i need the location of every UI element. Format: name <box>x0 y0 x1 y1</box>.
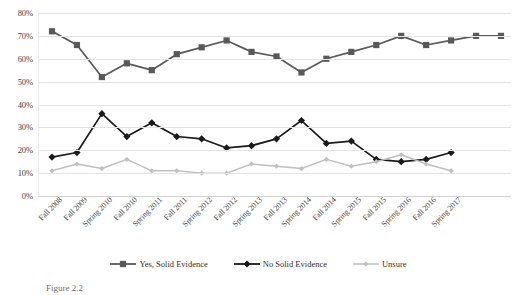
square-marker <box>224 37 230 43</box>
plot-area: 0%10%20%30%40%50%60%70%80% <box>38 13 511 196</box>
legend-label: Unsure <box>382 259 407 269</box>
y-axis-tick-label: 0% <box>22 191 33 201</box>
legend-label: No Solid Evidence <box>263 259 327 269</box>
x-axis-labels: Fall 2008Fall 2009Spring 2010Fall 2010Sp… <box>38 198 511 256</box>
square-marker <box>120 261 126 267</box>
legend-item[interactable]: Yes, Solid Evidence <box>110 259 207 269</box>
square-marker <box>199 44 205 50</box>
square-marker <box>174 51 180 57</box>
x-axis-tick-label: Fall 2008 <box>31 198 58 225</box>
series-line <box>52 114 451 162</box>
square-marker <box>99 74 105 80</box>
square-marker <box>348 49 354 55</box>
y-axis-tick-label: 40% <box>18 100 33 110</box>
small-diamond-marker <box>299 166 304 171</box>
y-axis-tick-label: 10% <box>18 168 33 178</box>
diamond-marker <box>248 142 255 149</box>
square-marker <box>149 67 155 73</box>
diamond-marker <box>173 133 180 140</box>
small-diamond-marker <box>99 166 104 171</box>
small-diamond-marker <box>399 152 404 157</box>
diamond-marker <box>243 260 250 267</box>
gridline <box>38 173 511 174</box>
gridline <box>38 105 511 106</box>
small-diamond-marker <box>349 164 354 169</box>
small-diamond-marker <box>324 157 329 162</box>
square-marker <box>448 37 454 43</box>
small-diamond-marker <box>124 157 129 162</box>
y-axis-tick-label: 30% <box>18 122 33 132</box>
y-axis-tick-label: 70% <box>18 31 33 41</box>
gridline <box>38 127 511 128</box>
gridline <box>38 13 511 14</box>
diamond-marker <box>48 154 55 161</box>
square-marker <box>423 42 429 48</box>
square-marker <box>298 69 304 75</box>
gridline <box>38 150 511 151</box>
square-marker <box>74 42 80 48</box>
figure-caption: Figure 2.2 <box>46 283 83 295</box>
square-marker <box>124 60 130 66</box>
square-marker <box>110 259 136 269</box>
gridline <box>38 82 511 83</box>
small-diamond-marker <box>249 161 254 166</box>
gridline <box>38 36 511 37</box>
square-marker <box>49 28 55 34</box>
small-diamond-marker <box>363 261 368 266</box>
small-marker <box>353 259 379 269</box>
y-axis-tick-label: 60% <box>18 54 33 64</box>
y-axis-tick-label: 20% <box>18 145 33 155</box>
diamond-marker <box>234 259 260 269</box>
diamond-marker <box>148 119 155 126</box>
gridline <box>38 59 511 60</box>
square-marker <box>373 42 379 48</box>
legend-item[interactable]: Unsure <box>353 259 407 269</box>
small-diamond-marker <box>274 164 279 169</box>
y-axis-tick-label: 80% <box>18 8 33 18</box>
chart-legend: Yes, Solid EvidenceNo Solid EvidenceUnsu… <box>0 259 517 269</box>
small-diamond-marker <box>74 161 79 166</box>
y-axis-tick-label: 50% <box>18 77 33 87</box>
small-diamond-marker <box>424 161 429 166</box>
figure-container: 0%10%20%30%40%50%60%70%80% Fall 2008Fall… <box>0 0 517 295</box>
diamond-marker <box>398 158 405 165</box>
diamond-marker <box>198 135 205 142</box>
square-marker <box>248 49 254 55</box>
legend-item[interactable]: No Solid Evidence <box>234 259 327 269</box>
legend-label: Yes, Solid Evidence <box>139 259 207 269</box>
